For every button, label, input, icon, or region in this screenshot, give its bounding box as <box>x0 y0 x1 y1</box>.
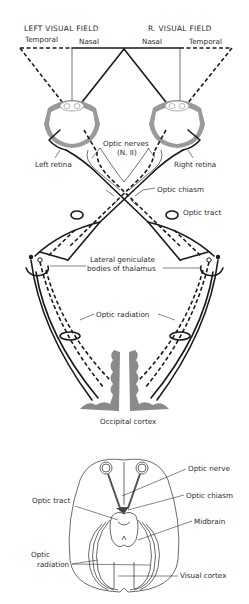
top-leader-lines <box>50 148 200 320</box>
left-temporal-label: Temporal <box>24 35 58 44</box>
left-retina-label: Left retina <box>35 160 72 169</box>
bottom-optic-radiation-label-line2: radiation <box>37 560 69 569</box>
lgb-label-line1: Lateral geniculate <box>90 255 156 264</box>
bottom-optic-tract-label: Optic tract <box>32 496 70 505</box>
optic-nerves-label-line2: (N. II) <box>117 148 137 157</box>
optic-tract-rings <box>71 211 178 219</box>
occipital-cortex-label: Occipital cortex <box>100 417 157 426</box>
optic-radiation-label: Optic radiation <box>96 310 149 319</box>
bottom-optic-chiasm-label: Optic chiasm <box>186 491 233 500</box>
optic-chiasm-label: Optic chiasm <box>157 185 204 194</box>
right-temporal-label: Temporal <box>188 37 222 46</box>
left-eye <box>44 100 100 148</box>
bottom-leader-lines <box>72 469 192 576</box>
bottom-optic-radiation-label-line1: Optic <box>31 550 50 559</box>
right-nasal-label: Nasal <box>142 37 162 46</box>
midbrain-label: Midbrain <box>194 517 225 526</box>
occipital-cortex <box>80 350 169 411</box>
visual-cortex-label: Visual cortex <box>180 571 227 580</box>
visual-pathway-diagram: LEFT VISUAL FIELD Temporal Nasal R. VISU… <box>0 0 249 604</box>
optic-nerve-label: Optic nerve <box>188 464 230 473</box>
optic-nerves <box>66 148 183 260</box>
lgb-label-line2: bodies of thalamus <box>87 264 156 273</box>
optic-tract-label: Optic tract <box>183 208 221 217</box>
left-visual-field-heading: LEFT VISUAL FIELD <box>24 24 99 33</box>
right-visual-field-heading: R. VISUAL FIELD <box>148 24 212 33</box>
optic-nerves-label-line1: Optic nerves <box>103 139 149 148</box>
optic-radiations <box>31 260 218 400</box>
left-nasal-label: Nasal <box>79 37 99 46</box>
right-retina-label: Right retina <box>174 160 216 169</box>
right-eye <box>149 100 205 148</box>
